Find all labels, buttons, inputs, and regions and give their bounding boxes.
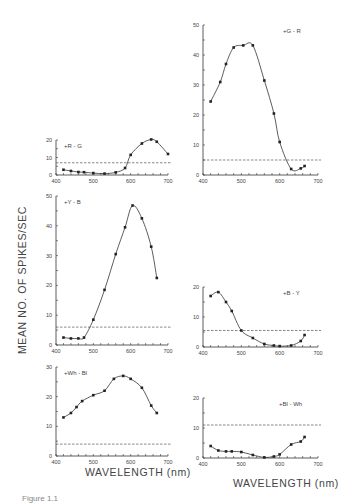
x-tick-label: 700: [313, 350, 322, 356]
x-tick-label: 600: [126, 348, 135, 354]
y-tick-label: 20: [193, 395, 199, 401]
data-point: [129, 154, 132, 157]
data-point: [70, 412, 73, 415]
data-point: [299, 167, 302, 170]
data-point: [232, 46, 235, 49]
panel-y-b: 40050060070001020304050+Y - B: [46, 193, 173, 354]
y-tick-label: 10: [193, 314, 199, 320]
data-point: [103, 389, 106, 392]
y-tick-label: 20: [46, 394, 52, 400]
data-point: [114, 171, 117, 174]
data-point: [273, 344, 276, 347]
response-curve: [211, 292, 305, 346]
panel-title: +R - G: [64, 143, 82, 149]
data-point: [70, 337, 73, 340]
data-point: [83, 336, 86, 339]
y-tick-label: 0: [49, 342, 52, 348]
data-point: [290, 344, 293, 347]
data-point: [278, 453, 281, 456]
data-point: [122, 375, 125, 378]
y-tick-label: 20: [193, 112, 199, 118]
y-tick-label: 30: [193, 82, 199, 88]
data-point: [150, 245, 153, 248]
data-point: [81, 400, 84, 403]
x-tick-label: 700: [163, 348, 172, 354]
data-point: [225, 301, 228, 304]
y-tick-label: 0: [196, 172, 199, 178]
x-tick-label: 600: [275, 461, 284, 467]
response-curve: [211, 43, 305, 171]
y-tick-label: 0: [196, 455, 199, 461]
response-curve: [63, 205, 156, 339]
x-tick-label: 500: [237, 350, 246, 356]
data-point: [273, 455, 276, 458]
y-tick-label: 10: [46, 312, 52, 318]
x-tick-label: 700: [163, 459, 172, 465]
y-tick-label: 40: [46, 223, 52, 229]
data-point: [103, 172, 106, 175]
data-point: [92, 172, 95, 175]
data-point: [303, 334, 306, 337]
data-point: [62, 336, 65, 339]
data-point: [217, 449, 220, 452]
panel-title: +Y - B: [64, 199, 81, 205]
data-point: [209, 295, 212, 298]
data-point: [62, 168, 65, 171]
y-tick-label: 0: [49, 453, 52, 459]
data-point: [225, 63, 228, 66]
y-tick-label: 20: [46, 137, 52, 143]
data-point: [263, 343, 266, 346]
data-point: [240, 451, 243, 454]
data-point: [290, 168, 293, 171]
x-tick-label: 400: [198, 350, 207, 356]
panel-g-r: 40050060070001020304050+G - R: [193, 22, 323, 184]
data-point: [156, 412, 159, 415]
y-axis-label: MEAN NO. OF SPIKES/SEC: [16, 206, 28, 354]
y-tick-label: 10: [46, 423, 52, 429]
data-point: [77, 337, 80, 340]
data-point: [230, 310, 233, 313]
data-point: [62, 416, 65, 419]
data-point: [150, 138, 153, 141]
data-point: [217, 291, 220, 294]
x-tick-label: 400: [51, 348, 60, 354]
data-point: [141, 217, 144, 220]
data-point: [156, 140, 159, 143]
y-tick-label: 30: [46, 364, 52, 370]
panel-title: +B - Y: [283, 290, 300, 296]
data-point: [83, 171, 86, 174]
x-tick-label: 500: [237, 178, 246, 184]
data-point: [303, 165, 306, 168]
data-point: [103, 289, 106, 292]
response-curve: [63, 376, 156, 418]
data-point: [252, 44, 255, 47]
y-tick-label: 20: [46, 282, 52, 288]
data-point: [167, 153, 170, 156]
data-point: [278, 141, 281, 144]
data-point: [290, 443, 293, 446]
figure: 40050060070001020+R - G40050060070001020…: [0, 0, 342, 504]
data-point: [141, 386, 144, 389]
data-point: [303, 436, 306, 439]
figure-caption: Figure 1.1: [22, 494, 58, 503]
y-tick-label: 10: [193, 142, 199, 148]
data-point: [113, 378, 116, 381]
data-point: [252, 337, 255, 340]
panel-r-g: 40050060070001020+R - G: [46, 137, 173, 184]
panel-bl-wh: 40050060070001020+Bl - Wh: [193, 395, 323, 467]
x-tick-label: 500: [89, 178, 98, 184]
data-point: [242, 44, 245, 47]
y-tick-label: 50: [193, 22, 199, 28]
x-axis-label-left: WAVELENGTH (nm): [85, 466, 191, 478]
data-point: [240, 329, 243, 332]
data-point: [129, 378, 132, 381]
x-tick-label: 600: [126, 459, 135, 465]
x-tick-label: 700: [313, 178, 322, 184]
data-point: [141, 142, 144, 145]
data-point: [299, 440, 302, 443]
x-tick-label: 400: [198, 461, 207, 467]
panel-title: +Wh - Bl: [64, 370, 87, 376]
x-tick-label: 500: [89, 348, 98, 354]
data-point: [114, 253, 117, 256]
data-point: [263, 456, 266, 459]
